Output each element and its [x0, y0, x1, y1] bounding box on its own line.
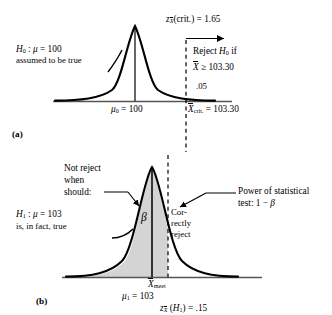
beta-symbol: β [141, 211, 147, 224]
reject-h0-line1: Reject H0 if [193, 46, 237, 57]
panel-b-label: (b) [36, 296, 47, 306]
h0-leader-line [108, 50, 122, 72]
statistical-power-figure: H0 : μ = 100 assumed to be true zX(crit.… [0, 0, 332, 315]
not-reject-arrow [128, 192, 139, 206]
panel-a-label: (a) [12, 129, 23, 139]
h0-hypothesis-line1: H0 : μ = 100 [16, 44, 62, 55]
z-h1-label: zX (H1) = .15 [160, 303, 207, 314]
mu1-label: μ1 = 103 [122, 291, 154, 302]
power-label-line1: Power of statistical [238, 186, 309, 196]
h1-leader-line [112, 229, 133, 238]
correctly-reject-line1: Cor- [171, 208, 187, 218]
not-reject-line2: when [64, 175, 84, 185]
h1-hypothesis-line1: H1 : μ = 103 [16, 209, 62, 220]
h0-hypothesis-line2: assumed to be true [16, 56, 82, 66]
power-arrow [180, 193, 206, 207]
power-label-line2: test: 1 − β [238, 198, 275, 208]
x-critical-axis-label: Xcrit. = 103.30 [188, 104, 239, 115]
alpha-label: .05 [196, 82, 207, 92]
x-meet-axis-label: Xmeet [148, 279, 166, 290]
correctly-reject-line2: rectly [171, 219, 191, 229]
not-reject-line1: Not reject [64, 163, 101, 173]
not-reject-line3: should: [64, 187, 91, 197]
correctly-reject-line3: reject [171, 230, 191, 240]
reject-h0-line2: X ≥ 103.30 [193, 62, 234, 72]
mu0-axis-label: μ0 = 100 [111, 104, 143, 115]
h1-hypothesis-line2: is, in fact, true [16, 222, 67, 232]
z-critical-label: zX(crit.) = 1.65 [166, 14, 220, 25]
